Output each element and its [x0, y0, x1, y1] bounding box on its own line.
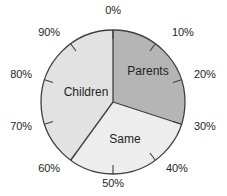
axis-label-50: 50% — [102, 177, 124, 189]
axis-label-90: 90% — [38, 26, 60, 38]
axis-label-10: 10% — [172, 26, 194, 38]
axis-label-40: 40% — [166, 162, 188, 174]
slice-label-children: Children — [64, 85, 109, 99]
axis-label-0: 0% — [105, 4, 121, 16]
axis-label-70: 70% — [10, 120, 32, 132]
axis-label-30: 30% — [194, 120, 216, 132]
axis-label-60: 60% — [38, 162, 60, 174]
slice-label-parents: Parents — [127, 64, 168, 78]
axis-label-80: 80% — [10, 68, 32, 80]
pie-chart-figure: 0%10%20%30%40%50%60%70%80%90% ParentsSam… — [0, 0, 227, 196]
axis-label-20: 20% — [194, 68, 216, 80]
slice-label-same: Same — [109, 132, 140, 146]
